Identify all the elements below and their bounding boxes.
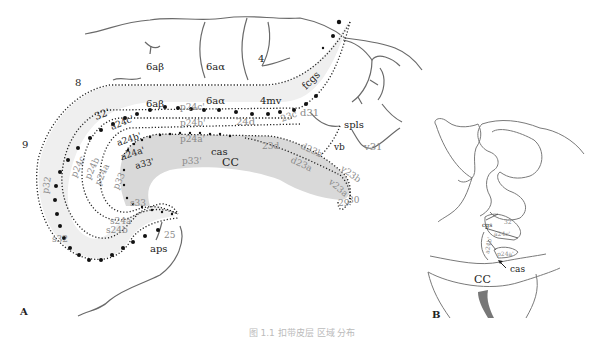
- label-v31: v31: [363, 141, 382, 152]
- coronal-cortex-outline: [435, 119, 481, 182]
- label-area-30: 30: [348, 195, 360, 205]
- label-p24a: p24a': [180, 134, 205, 144]
- label-area-23d: 23d: [262, 141, 279, 151]
- label-b-a24c: a24c': [494, 230, 511, 237]
- panel-a: 8 9 6aβ 6aα 4 6aβ 6aα 4mv fcgs 32' a24c'…: [19, 17, 422, 317]
- label-a24c: a24c': [109, 113, 135, 131]
- label-area-23c: 23c: [279, 109, 298, 124]
- label-area-24d: 24d: [236, 116, 256, 127]
- label-s32: s32: [52, 234, 68, 244]
- label-area-6ab-band: 6aβ: [146, 98, 164, 109]
- label-p24c: p24c': [180, 102, 205, 112]
- label-vb: vb: [333, 142, 345, 152]
- label-b-cc: CC: [474, 273, 491, 286]
- label-area-8: 8: [75, 77, 81, 88]
- label-p33: p33': [182, 156, 202, 166]
- label-area-6aa-top: 6aα: [206, 61, 225, 72]
- label-s33: s33: [130, 198, 146, 208]
- panel-a-label: A: [19, 306, 28, 317]
- panel-b: cgs 32' a24c' a24b' p24a' cas CC B: [428, 119, 584, 320]
- label-area-4mv: 4mv: [260, 95, 282, 106]
- label-area-25: 25: [164, 230, 176, 240]
- label-b-cas: cas: [510, 264, 525, 274]
- label-b-a24b: a24b': [483, 236, 493, 254]
- figure-caption: 图 1.1 扣带皮层 区域 分布: [0, 326, 604, 339]
- label-cc: CC: [222, 156, 239, 169]
- label-area-6ab-top: 6aβ: [146, 61, 164, 72]
- label-area-4: 4: [258, 53, 264, 64]
- corpus-callosum: [120, 134, 350, 206]
- label-aps: aps: [150, 243, 168, 254]
- label-b-p24a: p24a': [497, 250, 514, 258]
- panel-b-label: B: [432, 309, 440, 320]
- label-spls: spls: [344, 119, 364, 130]
- label-d31: d31: [300, 107, 319, 118]
- label-b-cgs: cgs: [482, 221, 492, 229]
- label-p24b: p24b': [180, 118, 205, 128]
- label-b-32p: 32': [504, 218, 514, 225]
- label-area-9: 9: [22, 139, 28, 150]
- ventricle-septum: [478, 290, 494, 318]
- label-s24b: s24b: [106, 225, 128, 235]
- label-area-6aa-band: 6aα: [206, 95, 225, 106]
